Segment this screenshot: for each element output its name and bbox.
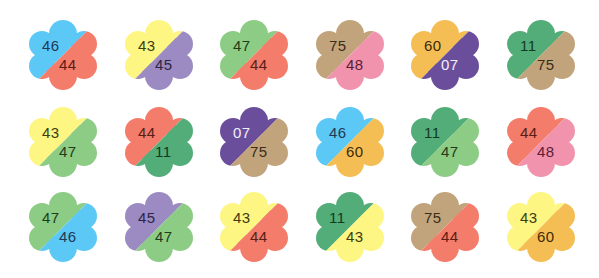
flower-shape-icon bbox=[410, 192, 480, 262]
flower-top-number: 46 bbox=[42, 38, 60, 53]
flower-top-number: 43 bbox=[520, 210, 538, 225]
flower-top-number: 43 bbox=[233, 210, 251, 225]
flower-card-18: 43 60 bbox=[506, 192, 576, 262]
flower-top-number: 47 bbox=[233, 38, 251, 53]
flower-top-number: 07 bbox=[233, 125, 251, 140]
flower-top-number: 47 bbox=[42, 210, 60, 225]
flower-shape-icon bbox=[506, 20, 576, 90]
flower-card-10: 46 60 bbox=[315, 107, 385, 177]
flower-card-14: 45 47 bbox=[124, 192, 194, 262]
flower-bottom-number: 45 bbox=[155, 57, 173, 72]
flower-bottom-number: 47 bbox=[59, 144, 77, 159]
flower-shape-icon bbox=[124, 192, 194, 262]
flower-card-16: 11 43 bbox=[315, 192, 385, 262]
flower-bottom-number: 75 bbox=[250, 144, 268, 159]
flower-card-6: 11 75 bbox=[506, 20, 576, 90]
flower-card-13: 47 46 bbox=[28, 192, 98, 262]
flower-bottom-number: 48 bbox=[537, 144, 555, 159]
flower-bottom-number: 47 bbox=[441, 144, 459, 159]
flower-card-15: 43 44 bbox=[219, 192, 289, 262]
flower-grid: 46 44 43 45 bbox=[0, 0, 599, 278]
flower-top-number: 11 bbox=[329, 210, 346, 225]
flower-shape-icon bbox=[28, 107, 98, 177]
flower-shape-icon bbox=[28, 20, 98, 90]
flower-shape-icon bbox=[219, 20, 289, 90]
flower-card-11: 11 47 bbox=[410, 107, 480, 177]
flower-bottom-number: 60 bbox=[537, 229, 555, 244]
flower-bottom-number: 07 bbox=[441, 57, 459, 72]
flower-bottom-number: 11 bbox=[155, 144, 172, 159]
flower-top-number: 60 bbox=[424, 38, 442, 53]
flower-shape-icon bbox=[219, 107, 289, 177]
flower-card-8: 44 11 bbox=[124, 107, 194, 177]
flower-bottom-number: 44 bbox=[441, 229, 459, 244]
flower-shape-icon bbox=[124, 107, 194, 177]
flower-top-number: 43 bbox=[138, 38, 156, 53]
flower-top-number: 75 bbox=[329, 38, 347, 53]
flower-shape-icon bbox=[410, 107, 480, 177]
flower-top-number: 44 bbox=[520, 125, 538, 140]
flower-card-1: 46 44 bbox=[28, 20, 98, 90]
flower-card-7: 43 47 bbox=[28, 107, 98, 177]
flower-shape-icon bbox=[315, 192, 385, 262]
flower-bottom-number: 44 bbox=[250, 57, 268, 72]
flower-shape-icon bbox=[124, 20, 194, 90]
flower-card-2: 43 45 bbox=[124, 20, 194, 90]
flower-top-number: 75 bbox=[424, 210, 442, 225]
flower-bottom-number: 60 bbox=[346, 144, 364, 159]
flower-shape-icon bbox=[315, 20, 385, 90]
flower-shape-icon bbox=[506, 192, 576, 262]
flower-top-number: 11 bbox=[424, 125, 441, 140]
flower-bottom-number: 44 bbox=[250, 229, 268, 244]
flower-bottom-number: 75 bbox=[537, 57, 555, 72]
flower-shape-icon bbox=[219, 192, 289, 262]
flower-card-9: 07 75 bbox=[219, 107, 289, 177]
flower-bottom-number: 48 bbox=[346, 57, 364, 72]
flower-card-4: 75 48 bbox=[315, 20, 385, 90]
flower-top-number: 11 bbox=[520, 38, 537, 53]
flower-bottom-number: 44 bbox=[59, 57, 77, 72]
flower-shape-icon bbox=[410, 20, 480, 90]
flower-top-number: 46 bbox=[329, 125, 347, 140]
flower-card-17: 75 44 bbox=[410, 192, 480, 262]
flower-shape-icon bbox=[28, 192, 98, 262]
flower-bottom-number: 43 bbox=[346, 229, 364, 244]
flower-top-number: 43 bbox=[42, 125, 60, 140]
flower-shape-icon bbox=[506, 107, 576, 177]
flower-top-number: 44 bbox=[138, 125, 156, 140]
flower-card-3: 47 44 bbox=[219, 20, 289, 90]
flower-card-12: 44 48 bbox=[506, 107, 576, 177]
flower-card-5: 60 07 bbox=[410, 20, 480, 90]
flower-bottom-number: 46 bbox=[59, 229, 77, 244]
flower-top-number: 45 bbox=[138, 210, 156, 225]
flower-bottom-number: 47 bbox=[155, 229, 173, 244]
flower-shape-icon bbox=[315, 107, 385, 177]
